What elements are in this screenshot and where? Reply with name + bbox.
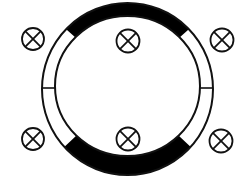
crossed-circle-top-center-icon: [117, 30, 140, 53]
crossed-circle-top-right-icon: [211, 29, 234, 52]
crossed-circle-bottom-center-icon: [117, 128, 140, 151]
ring-diagram: [0, 0, 251, 191]
crossed-circle-top-left-icon: [22, 28, 44, 50]
crossed-circle-bottom-left-icon: [22, 128, 44, 150]
bottom-band: [60, 135, 195, 191]
ring-inner-edge: [55, 16, 200, 156]
crossed-circle-bottom-right-icon: [210, 130, 233, 153]
